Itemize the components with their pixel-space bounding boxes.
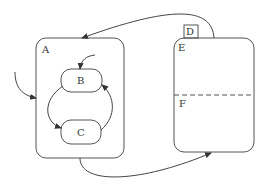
state-e-label: E — [178, 42, 185, 53]
transition-initial-to-b[interactable] — [80, 55, 95, 69]
statechart-diagram: A B C D E F — [0, 0, 268, 186]
region-f-label: F — [179, 98, 186, 109]
state-a-label: A — [41, 44, 50, 55]
transition-c-to-b[interactable] — [101, 85, 112, 130]
transition-e-to-a[interactable] — [82, 14, 214, 38]
state-d-label: D — [186, 26, 194, 37]
transition-external-to-a[interactable] — [15, 72, 36, 98]
transition-b-to-c[interactable] — [48, 86, 63, 128]
state-b-label: B — [77, 75, 84, 86]
transition-a-to-e[interactable] — [80, 153, 211, 177]
state-d-tab[interactable]: D — [184, 25, 198, 38]
state-c-label: C — [77, 127, 85, 138]
state-c[interactable]: C — [61, 120, 101, 144]
state-b[interactable]: B — [61, 69, 102, 92]
